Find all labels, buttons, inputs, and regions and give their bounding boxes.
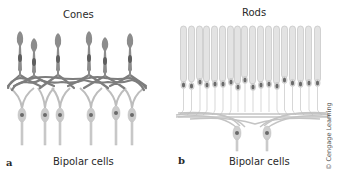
rods-bipolar-label: Bipolar cells xyxy=(229,156,290,167)
bipolar-cell xyxy=(52,88,70,145)
cones xyxy=(17,31,133,77)
copyright-credit: © Cengage Learning xyxy=(325,102,333,170)
bipolar-cell xyxy=(233,126,241,151)
rod xyxy=(266,26,272,112)
cone-bipolar-cells xyxy=(10,88,144,145)
retina-diagram xyxy=(0,0,337,176)
rod-panel xyxy=(176,26,330,151)
rod xyxy=(179,26,187,115)
rod xyxy=(306,26,314,115)
rod xyxy=(196,26,203,115)
cone xyxy=(127,33,133,76)
rod xyxy=(235,26,241,112)
bipolar-cell xyxy=(106,88,126,145)
rod xyxy=(274,26,281,115)
rod xyxy=(203,26,210,115)
rod xyxy=(315,26,323,115)
bipolar-cell xyxy=(80,88,102,145)
rod xyxy=(242,26,248,112)
panel-b-label: b xyxy=(178,155,185,166)
rod xyxy=(282,26,289,115)
cone xyxy=(31,38,37,77)
cone xyxy=(86,31,92,76)
rod-network xyxy=(176,113,330,128)
cone xyxy=(17,31,23,76)
rod xyxy=(220,26,226,115)
rods-title: Rods xyxy=(242,7,266,18)
cone xyxy=(55,33,61,76)
panel-a-label: a xyxy=(6,157,12,168)
cone-panel xyxy=(8,31,146,145)
cones-bipolar-label: Bipolar cells xyxy=(53,156,114,167)
rod-bipolar-cells xyxy=(233,126,271,151)
bipolar-cell xyxy=(124,88,144,145)
rod xyxy=(187,26,195,115)
bipolar-cell xyxy=(263,126,271,151)
rod xyxy=(258,26,264,112)
cones-title: Cones xyxy=(63,9,94,20)
cone xyxy=(102,37,108,77)
rods xyxy=(179,26,322,115)
bipolar-cell xyxy=(10,88,34,145)
rod xyxy=(290,26,297,115)
rod xyxy=(212,26,218,115)
rod xyxy=(298,26,305,115)
rod xyxy=(250,26,256,112)
rod xyxy=(228,26,234,115)
bipolar-cell xyxy=(38,88,54,145)
